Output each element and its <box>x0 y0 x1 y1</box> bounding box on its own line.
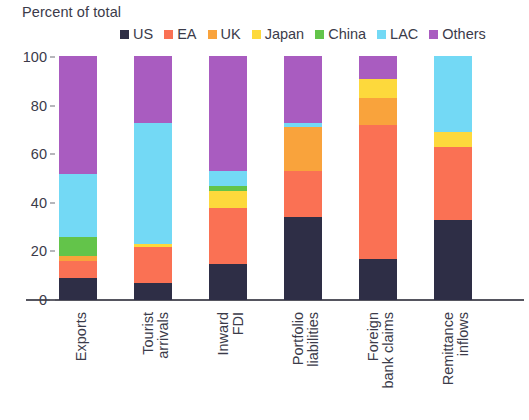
y-axis-tick-label: 100 <box>23 50 47 65</box>
bar-segment-ea <box>434 146 472 220</box>
x-axis-label-line: Inward <box>216 312 231 412</box>
bar-segment-ea <box>134 246 172 283</box>
bar-segment-others <box>134 56 172 122</box>
bar-segment-us <box>59 278 97 300</box>
plot-area: 020406080100 <box>56 57 516 300</box>
bar-segment-others <box>59 56 97 173</box>
x-axis-label-portfolio-liabilities: Portfolioliabilities <box>291 312 321 412</box>
x-axis-label-line: Exports <box>74 312 89 412</box>
legend-swatch-icon <box>208 30 217 39</box>
legend-swatch-icon <box>429 30 438 39</box>
y-axis-tick-mark <box>50 300 55 301</box>
legend-item-lac[interactable]: LAC <box>377 27 418 42</box>
bar-segment-others <box>284 56 322 122</box>
x-axis-label-line: liabilities <box>306 312 321 412</box>
y-axis-tick-mark <box>50 251 55 252</box>
legend-label: China <box>328 27 366 42</box>
bar-segment-lac <box>209 171 247 186</box>
legend-swatch-icon <box>315 30 324 39</box>
legend-item-uk[interactable]: UK <box>208 27 241 42</box>
bar-segment-others <box>209 56 247 171</box>
bar-foreign-bank-claims[interactable] <box>359 57 397 300</box>
bar-portfolio-liabilities[interactable] <box>284 57 322 300</box>
y-axis-tick-label: 80 <box>31 98 47 113</box>
x-axis-label-line: Portfolio <box>291 312 306 412</box>
legend-label: Japan <box>265 27 305 42</box>
bar-segment-uk <box>359 98 397 125</box>
bar-segment-lac <box>59 173 97 237</box>
x-axis-label-exports: Exports <box>74 312 89 412</box>
y-axis-tick-label: 0 <box>39 293 47 308</box>
y-axis-tick-label: 40 <box>31 196 47 211</box>
bar-segment-china <box>59 236 97 256</box>
legend-label: EA <box>177 27 196 42</box>
legend-label: Others <box>442 27 486 42</box>
bar-segment-us <box>434 219 472 300</box>
bar-segment-us <box>359 258 397 300</box>
bar-exports[interactable] <box>59 57 97 300</box>
bar-segment-ea <box>59 261 97 279</box>
x-axis-label-line: arrivals <box>156 312 171 412</box>
chart-legend: USEAUKJapanChinaLACOthers <box>120 27 486 42</box>
x-axis-label-remittance-inflows: Remittanceinflows <box>441 312 471 412</box>
legend-swatch-icon <box>164 30 173 39</box>
legend-item-china[interactable]: China <box>315 27 366 42</box>
x-axis-label-inward-fdi: InwardFDI <box>216 312 246 412</box>
bar-segment-us <box>284 217 322 300</box>
x-axis-label-foreign-bank-claims: Foreignbank claims <box>366 312 396 412</box>
bar-segment-china <box>209 185 247 190</box>
bar-inward-fdi[interactable] <box>209 57 247 300</box>
bar-segment-uk <box>284 127 322 171</box>
bar-segment-japan <box>434 132 472 147</box>
stacked-bar-chart: Percent of total USEAUKJapanChinaLACOthe… <box>0 0 529 420</box>
x-axis-label-line: Tourist <box>141 312 156 412</box>
bar-segment-lac <box>284 122 322 127</box>
legend-swatch-icon <box>252 30 261 39</box>
y-axis-title: Percent of total <box>22 4 121 20</box>
legend-label: LAC <box>390 27 418 42</box>
legend-label: US <box>133 27 153 42</box>
legend-item-others[interactable]: Others <box>429 27 486 42</box>
bar-segment-japan <box>359 78 397 98</box>
bar-segment-ea <box>284 171 322 218</box>
legend-label: UK <box>221 27 241 42</box>
y-axis-tick-mark <box>50 202 55 203</box>
legend-item-us[interactable]: US <box>120 27 153 42</box>
y-axis-tick-label: 20 <box>31 244 47 259</box>
bar-segment-japan <box>209 190 247 208</box>
bar-segment-others <box>359 56 397 78</box>
bar-segment-lac <box>134 122 172 244</box>
bar-segment-uk <box>59 256 97 261</box>
legend-item-japan[interactable]: Japan <box>252 27 305 42</box>
bar-segment-us <box>209 263 247 300</box>
legend-item-ea[interactable]: EA <box>164 27 196 42</box>
x-axis-label-tourist-arrivals: Touristarrivals <box>141 312 171 412</box>
x-axis-label-line: Foreign <box>366 312 381 412</box>
x-axis-label-line: bank claims <box>381 312 396 412</box>
y-axis-tick-mark <box>50 57 55 58</box>
x-axis-label-line: Remittance <box>441 312 456 412</box>
bar-remittance-inflows[interactable] <box>434 57 472 300</box>
bar-segment-us <box>134 282 172 300</box>
bar-segment-lac <box>434 56 472 132</box>
bar-segment-ea <box>359 124 397 258</box>
x-axis-label-line: FDI <box>231 312 246 412</box>
legend-swatch-icon <box>377 30 386 39</box>
legend-swatch-icon <box>120 30 129 39</box>
bar-tourist-arrivals[interactable] <box>134 57 172 300</box>
y-axis-tick-mark <box>50 154 55 155</box>
y-axis-tick-label: 60 <box>31 147 47 162</box>
x-axis-label-line: inflows <box>456 312 471 412</box>
y-axis-tick-mark <box>50 105 55 106</box>
bar-segment-ea <box>209 207 247 263</box>
